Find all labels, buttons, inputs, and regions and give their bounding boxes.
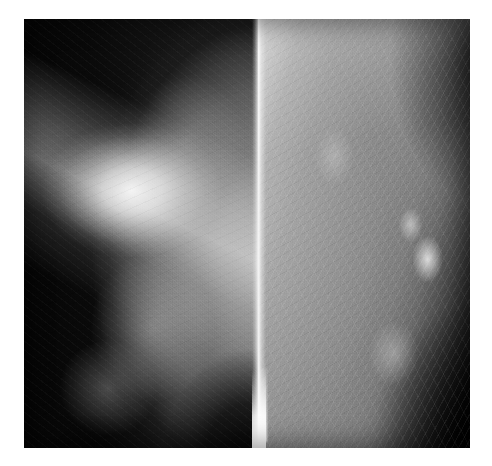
mammogram-figure [24,19,470,448]
mammogram-panel-left [24,19,258,448]
mammogram-panel-right [258,19,470,448]
right-nodular-densities [258,19,470,448]
page-root [0,0,492,466]
right-skin-line-strip [258,368,267,442]
left-trabecular-streaks [24,19,258,448]
